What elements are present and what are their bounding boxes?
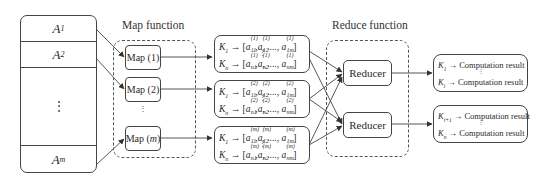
result-line-last: Kn → Computation result	[438, 125, 527, 142]
reduce-function-group	[326, 40, 409, 157]
vertical-ellipsis-icon: ⋮	[139, 107, 147, 111]
input-label: A	[53, 21, 61, 37]
input-row-a1: A1	[21, 16, 96, 42]
input-subscript: m	[60, 155, 66, 164]
input-row-am: Am	[21, 146, 96, 173]
reduce-function-label: Reduce function	[332, 19, 408, 31]
kv-line-kn: Kn → [a(1)n1 ,a(1)n2, ...., a(1)nm ]	[219, 55, 309, 72]
input-row-a2: A2	[21, 42, 96, 68]
mapper-index: m	[150, 133, 157, 144]
vertical-ellipsis-icon: ⋮	[478, 70, 484, 73]
input-label: A	[53, 47, 61, 63]
key-subscript: n	[444, 134, 447, 140]
result-text: Computation result	[459, 128, 524, 138]
vertical-ellipsis-icon: ⋮	[53, 104, 65, 109]
key-subscript: i+1	[444, 117, 452, 123]
input-label: A	[52, 152, 60, 168]
right-arrow-icon: →	[454, 111, 463, 121]
right-arrow-icon: →	[449, 128, 458, 138]
key-subscript: 1	[225, 139, 228, 145]
kv-line-kn: Kn → [a(m)n1 ,a(m)n2, ...., a(m)nm ]	[219, 146, 309, 163]
mapper-suffix: )	[156, 84, 159, 95]
reducer-1: Reducer	[343, 60, 392, 86]
result-text: Computation result	[459, 60, 524, 70]
key-subscript: 1	[225, 48, 228, 54]
output-result-1: K1 → Computation result ⋮ Ki → Computati…	[433, 54, 528, 92]
mapper-prefix: Map (	[127, 84, 151, 95]
mapper-prefix: Map (	[126, 133, 150, 144]
mapper-1: Map (1)	[125, 45, 161, 70]
input-data-block: A1 A2 ⋮ Am	[20, 15, 97, 173]
intermediate-kv-1: K1 → [a(1)11 ,a(1)12, ...., a(1)1m ] ⋮ K…	[214, 35, 310, 73]
right-arrow-icon: →	[231, 104, 241, 114]
term-subscript: n1	[251, 149, 257, 168]
result-text: Computation result	[464, 111, 529, 121]
kv-line-kn: Kn → [a(2)n1 ,a(2)n2, ...., a(2)nm ]	[219, 100, 309, 117]
mapper-suffix: )	[156, 52, 159, 63]
right-arrow-icon: →	[231, 87, 241, 97]
right-arrow-icon: →	[449, 60, 458, 70]
input-subscript: 2	[60, 50, 64, 59]
right-arrow-icon: →	[231, 42, 241, 52]
key-subscript: i	[444, 83, 446, 89]
right-arrow-icon: →	[231, 59, 241, 69]
key-subscript: 1	[225, 93, 228, 99]
right-arrow-icon: →	[231, 133, 241, 143]
right-arrow-icon: →	[447, 77, 456, 87]
mapper-suffix: )	[157, 133, 160, 144]
key-subscript: 1	[444, 66, 447, 72]
input-subscript: 1	[60, 24, 64, 33]
result-text: Computation result	[458, 77, 523, 87]
output-result-2: Ki+1 → Computation result ⋮ Kn → Computa…	[433, 105, 528, 143]
term-subscript: n2	[263, 149, 269, 168]
mapper-m: Map (m)	[125, 126, 161, 151]
reducer-2: Reducer	[343, 112, 392, 138]
key-subscript: n	[225, 156, 228, 162]
term-subscript: nm	[286, 149, 293, 168]
mapper-prefix: Map (	[127, 52, 151, 63]
result-line-last: Ki → Computation result	[438, 74, 527, 91]
key-subscript: n	[225, 65, 228, 71]
key-subscript: n	[225, 110, 228, 116]
vertical-ellipsis-icon: ⋮	[478, 121, 484, 124]
map-function-label: Map function	[122, 19, 184, 31]
mapper-2: Map (2)	[125, 77, 161, 102]
right-arrow-icon: →	[231, 150, 241, 160]
intermediate-kv-m: K1 → [a(m)11 ,a(m)12, ...., a(m)1m ] ⋮ K…	[214, 126, 310, 164]
intermediate-kv-2: K1 → [a(2)11 ,a(2)12, ...., a(2)1m ] ⋮ K…	[214, 80, 310, 118]
input-row-ellipsis: ⋮	[21, 68, 96, 146]
